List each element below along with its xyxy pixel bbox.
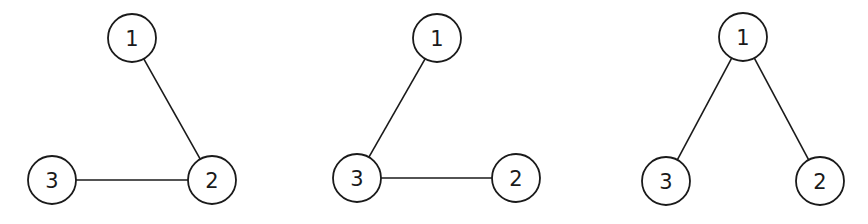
node-3: 3: [333, 154, 381, 202]
edge-1-3: [677, 58, 731, 160]
node-label: 3: [350, 167, 363, 191]
node-label: 2: [205, 169, 218, 193]
node-label: 3: [659, 170, 672, 194]
node-1: 1: [108, 14, 156, 62]
node-3: 3: [642, 157, 690, 205]
graph-panel-b: 1 2 3: [333, 14, 540, 202]
edge-1-3: [369, 59, 425, 157]
node-1: 1: [413, 14, 461, 62]
edge-1-2: [144, 59, 200, 159]
node-2: 2: [796, 157, 844, 205]
node-1: 1: [719, 13, 767, 61]
node-label: 2: [813, 170, 826, 194]
node-label: 1: [125, 27, 138, 51]
node-label: 1: [430, 27, 443, 51]
node-label: 3: [45, 169, 58, 193]
node-label: 2: [509, 167, 522, 191]
graph-diagram: 1 2 3 1 2 3 1: [0, 0, 868, 224]
edge-1-2: [754, 58, 808, 160]
graph-panel-c: 1 2 3: [642, 13, 844, 205]
node-2: 2: [492, 154, 540, 202]
node-2: 2: [188, 156, 236, 204]
node-label: 1: [736, 26, 749, 50]
node-3: 3: [28, 156, 76, 204]
graph-panel-a: 1 2 3: [28, 14, 236, 204]
